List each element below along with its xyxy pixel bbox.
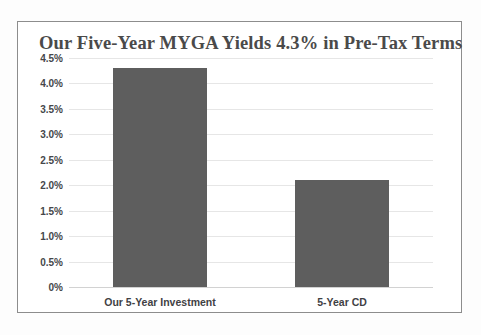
x-axis-tick-label: Our 5-Year Investment	[104, 296, 215, 308]
bar	[295, 180, 389, 287]
y-axis-tick-label: 4.0%	[40, 78, 63, 89]
x-axis-tick-label: 5-Year CD	[317, 296, 367, 308]
y-axis-tick-label: 0.5%	[40, 256, 63, 267]
chart-title: Our Five-Year MYGA Yields 4.3% in Pre-Ta…	[39, 33, 443, 54]
bar	[113, 68, 207, 287]
y-axis-tick-label: 1.5%	[40, 205, 63, 216]
gridline	[69, 58, 433, 59]
chart-card: Our Five-Year MYGA Yields 4.3% in Pre-Ta…	[17, 21, 462, 313]
y-axis-tick-label: 2.5%	[40, 154, 63, 165]
y-axis-tick-label: 2.0%	[40, 180, 63, 191]
y-axis-tick-label: 3.5%	[40, 103, 63, 114]
plot-area: 0%0.5%1.0%1.5%2.0%2.5%3.0%3.5%4.0%4.5%Ou…	[69, 58, 433, 287]
y-axis-tick-label: 3.0%	[40, 129, 63, 140]
y-axis-tick-label: 4.5%	[40, 53, 63, 64]
y-axis-tick-label: 1.0%	[40, 231, 63, 242]
axis-baseline	[69, 287, 433, 288]
y-axis-tick-label: 0%	[49, 282, 63, 293]
chart-screenshot: Our Five-Year MYGA Yields 4.3% in Pre-Ta…	[0, 0, 481, 335]
